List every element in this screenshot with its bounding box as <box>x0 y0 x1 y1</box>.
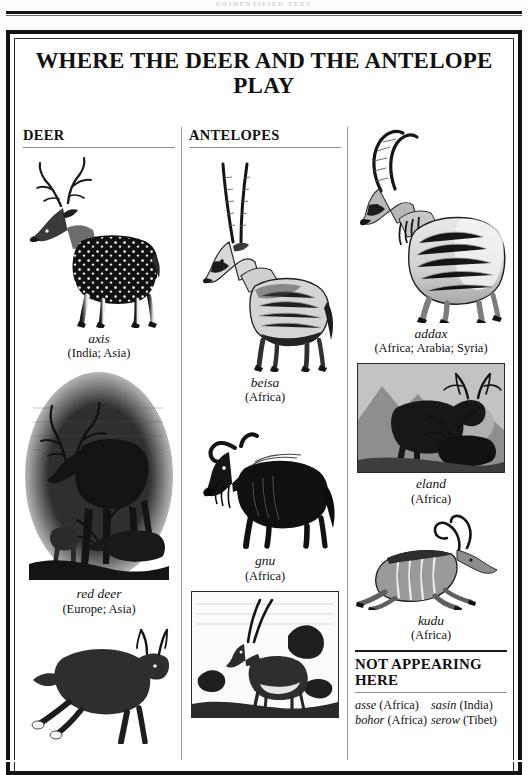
not-appearing-here-heading: NOT APPEARING HERE <box>355 656 507 692</box>
page-content: WHERE THE DEER AND THE ANTELOPE PLAY DEE… <box>11 35 517 762</box>
caption-gnu: gnu (Africa) <box>189 553 341 582</box>
species-name: kudu <box>355 613 507 628</box>
species-name: sasin <box>431 698 456 712</box>
kudu-engraving <box>355 514 507 610</box>
not-appearing-entry: bohor (Africa) <box>355 713 431 729</box>
species-region: (Tibet) <box>463 713 497 727</box>
top-rule <box>6 11 522 14</box>
species-region: (Africa; Arabia; Syria) <box>355 341 507 355</box>
section-heading-deer: DEER <box>23 127 175 148</box>
species-name: asse <box>355 698 376 712</box>
species-region: (Europe; Asia) <box>23 602 175 616</box>
section-heading-antelopes: ANTELOPES <box>189 127 341 148</box>
species-region: (Africa) <box>387 713 427 727</box>
column-container: DEER <box>11 127 517 762</box>
species-name: axis <box>23 331 175 346</box>
page-bottom-cut <box>0 760 528 762</box>
running-head: UNIDENTIFIED TEXT <box>0 0 528 9</box>
species-name: bohor <box>355 713 384 727</box>
species-region: (Africa) <box>189 390 341 404</box>
axis-deer-engraving <box>23 150 175 328</box>
species-name: red deer <box>23 586 175 601</box>
addax-engraving <box>355 127 507 323</box>
column-antelopes-continued: addax (Africa; Arabia; Syria) <box>355 127 507 729</box>
column-divider-1 <box>181 127 182 762</box>
not-appearing-entry: sasin (India) <box>431 698 507 714</box>
species-region: (Africa) <box>355 628 507 642</box>
species-name: addax <box>355 326 507 341</box>
species-region: (India; Asia) <box>23 346 175 360</box>
species-region: (Africa) <box>355 492 507 506</box>
beisa-antelope-engraving <box>189 150 341 372</box>
page-title: WHERE THE DEER AND THE ANTELOPE PLAY <box>11 35 517 99</box>
list-item: asse (Africa) sasin (India) <box>355 698 507 714</box>
gnu-engraving <box>189 412 341 550</box>
list-item: bohor (Africa) serow (Tibet) <box>355 713 507 729</box>
caption-beisa: beisa (Africa) <box>189 375 341 404</box>
species-region: (Africa) <box>189 569 341 583</box>
roe-deer-engraving <box>23 624 175 744</box>
species-region: (India) <box>459 698 492 712</box>
caption-axis: axis (India; Asia) <box>23 331 175 360</box>
column-deer: DEER <box>23 127 175 744</box>
species-name: eland <box>355 476 507 491</box>
top-rule-thin <box>6 15 522 16</box>
not-appearing-here-list: asse (Africa) sasin (India) bohor (Afric… <box>355 698 507 730</box>
species-name: gnu <box>189 553 341 568</box>
caption-red-deer: red deer (Europe; Asia) <box>23 586 175 615</box>
column-antelopes: ANTELOPES <box>189 127 341 718</box>
species-name: beisa <box>189 375 341 390</box>
not-appearing-entry: asse (Africa) <box>355 698 431 714</box>
eland-engraving <box>357 363 505 473</box>
not-appearing-here-box: NOT APPEARING HERE asse (Africa) sasin (… <box>355 650 507 729</box>
oryx-engraving <box>191 591 339 718</box>
caption-eland: eland (Africa) <box>355 476 507 505</box>
species-name: serow <box>431 713 460 727</box>
column-divider-2 <box>347 127 348 762</box>
caption-addax: addax (Africa; Arabia; Syria) <box>355 326 507 355</box>
red-deer-engraving <box>23 368 175 583</box>
not-appearing-entry: serow (Tibet) <box>431 713 507 729</box>
caption-kudu: kudu (Africa) <box>355 613 507 642</box>
species-region: (Africa) <box>379 698 419 712</box>
